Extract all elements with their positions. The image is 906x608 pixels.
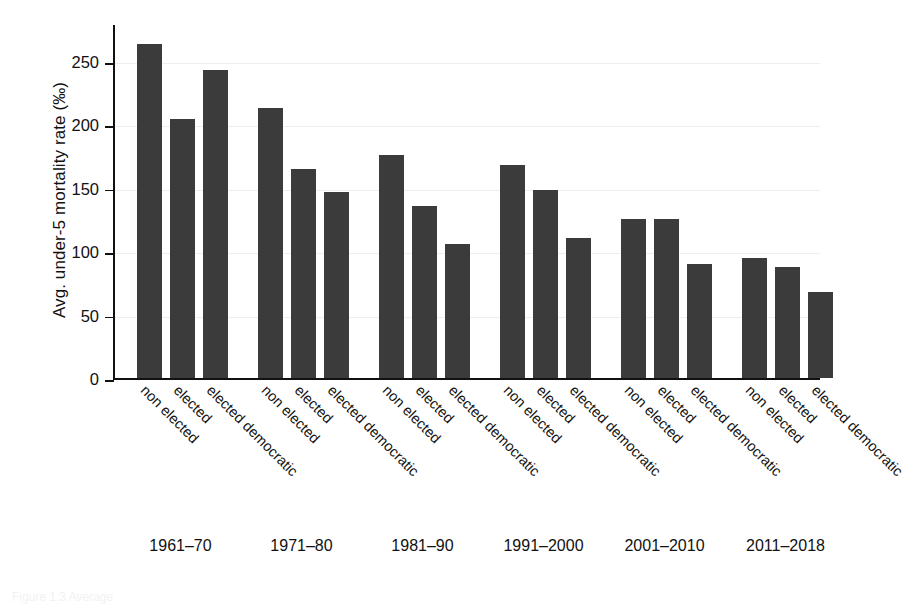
category-label: elected democratic [445, 382, 542, 479]
bar [412, 206, 437, 378]
category-label: elected democratic [203, 382, 300, 479]
y-tick-250: 250 [105, 63, 114, 65]
y-tick-label: 200 [71, 117, 99, 136]
y-tick-150: 150 [105, 190, 114, 192]
category-label: elected democratic [687, 382, 784, 479]
y-tick-label: 50 [81, 307, 99, 326]
bar [654, 219, 679, 379]
period-label: 2001–2010 [624, 537, 704, 555]
bar [775, 267, 800, 379]
bars-layer [115, 25, 820, 378]
bar [258, 108, 283, 378]
figure-caption: Figure 1.3 Average [12, 590, 113, 604]
bar [687, 264, 712, 378]
bar [137, 44, 162, 379]
period-label: 1991–2000 [503, 537, 583, 555]
category-label: elected democratic [808, 382, 905, 479]
bar [621, 219, 646, 379]
bar [566, 238, 591, 379]
y-tick-label: 150 [71, 180, 99, 199]
y-tick-200: 200 [105, 126, 114, 128]
y-tick-50: 50 [105, 317, 114, 319]
bar [379, 155, 404, 378]
bar [203, 70, 228, 378]
bar [445, 244, 470, 378]
period-label: 1981–90 [391, 537, 453, 555]
bar [500, 165, 525, 378]
plot-area: 050100150200250 [113, 25, 820, 380]
x-axis-line [113, 378, 820, 380]
period-label: 1971–80 [270, 537, 332, 555]
category-label: elected democratic [566, 382, 663, 479]
category-axis-labels: non electedelectedelected democraticnon … [113, 382, 823, 527]
y-tick-label: 0 [90, 370, 99, 389]
bar [533, 190, 558, 379]
bar [808, 292, 833, 378]
bar [291, 169, 316, 378]
y-tick-label: 100 [71, 243, 99, 262]
period-label: 2011–2018 [746, 537, 825, 555]
y-tick-100: 100 [105, 253, 114, 255]
y-axis-title: Avg. under-5 mortality rate (‰) [50, 20, 70, 380]
bar [742, 258, 767, 378]
category-label: elected democratic [324, 382, 421, 479]
period-axis-labels: 1961–701971–801981–901991–20002001–20102… [113, 537, 823, 561]
bar [324, 192, 349, 378]
bar [170, 119, 195, 379]
period-label: 1961–70 [149, 537, 211, 555]
y-tick-label: 250 [71, 53, 99, 72]
